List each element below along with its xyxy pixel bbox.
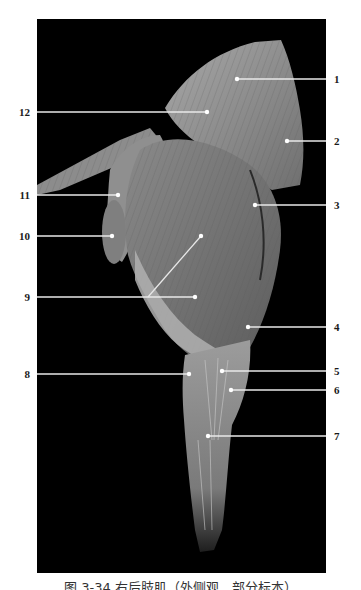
label-12: 12 (6, 106, 30, 118)
specimen-photo (37, 19, 326, 573)
label-5: 5 (334, 365, 354, 377)
label-6: 6 (334, 384, 354, 396)
figure-caption: 图 3-34 右后肢肌（外侧观，部分标本） (0, 579, 361, 590)
label-4: 4 (334, 321, 354, 333)
label-1: 1 (334, 73, 354, 85)
label-10: 10 (6, 230, 30, 242)
label-2: 2 (334, 135, 354, 147)
lower-leg-crus (183, 340, 251, 552)
label-11: 11 (6, 189, 30, 201)
label-9: 9 (6, 291, 30, 303)
hindlimb-specimen-illustration (37, 19, 326, 573)
rounded-muscle-belly (102, 200, 126, 264)
label-8: 8 (6, 368, 30, 380)
anatomy-figure: 1 2 3 4 5 6 7 12 11 10 9 8 图 3-34 右后肢肌（外… (0, 0, 361, 590)
label-3: 3 (334, 199, 354, 211)
label-7: 7 (334, 430, 354, 442)
